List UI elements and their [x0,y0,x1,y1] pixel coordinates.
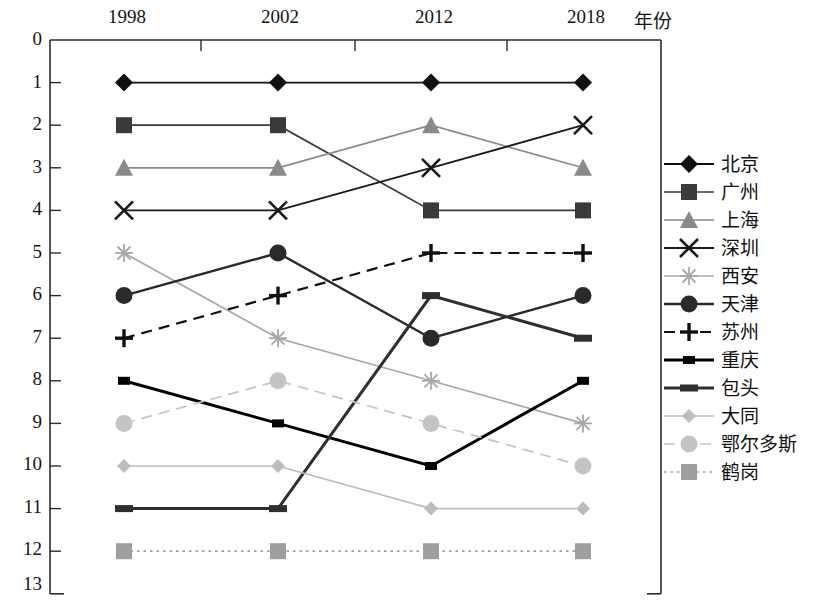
data-point-circle [681,296,698,313]
data-point-triangle [422,116,440,133]
legend-label: 鹤岗 [715,463,759,482]
series-10 [116,372,592,474]
data-point-circle-light [681,436,698,453]
series-5 [116,245,592,347]
chart-series-layer [115,74,592,560]
data-point-small-diamond [576,502,590,516]
data-point-circle [423,330,440,347]
data-point-bar [680,385,698,392]
legend-marker-cross-x-icon [663,236,715,260]
data-point-plus [269,287,287,305]
data-point-square-light [681,464,697,480]
data-point-diamond [680,155,698,173]
data-point-square-light [575,543,591,559]
data-point-square-light [116,543,132,559]
legend-marker-circle-light-icon [663,432,715,456]
legend-item-天津[interactable]: 天津 [663,290,823,318]
data-point-asterisk [269,329,287,347]
data-point-small-square [272,419,284,427]
data-point-small-diamond [682,409,696,423]
legend-marker-small-diamond-icon [663,404,715,428]
legend-item-鹤岗[interactable]: 鹤岗 [663,458,823,486]
data-point-small-diamond [117,459,131,473]
legend-marker-asterisk-icon [663,264,715,288]
data-point-square-light [270,543,286,559]
data-point-plus [680,323,698,341]
legend-item-深圳[interactable]: 深圳 [663,234,823,262]
chart-page: 1998 2002 2012 2018 年份 0 1 2 3 4 5 6 7 8… [0,0,824,602]
data-point-square-light [423,543,439,559]
legend-marker-square-light-icon [663,460,715,484]
data-point-bar [422,292,440,299]
legend-label: 包头 [715,379,759,398]
legend-label: 上海 [715,211,759,230]
legend-label: 深圳 [715,239,759,258]
data-point-asterisk [115,244,133,262]
chart-axes [50,40,661,594]
legend-item-广州[interactable]: 广州 [663,178,823,206]
legend-item-包头[interactable]: 包头 [663,374,823,402]
legend-label: 重庆 [715,351,759,370]
data-point-circle-light [270,372,287,389]
data-point-small-square [118,377,130,385]
data-point-small-diamond [424,502,438,516]
data-point-asterisk [422,372,440,390]
series-7 [118,377,589,470]
data-point-circle-light [575,458,592,475]
data-point-bar [574,335,592,342]
legend-marker-bar-icon [663,376,715,400]
legend-item-西安[interactable]: 西安 [663,262,823,290]
legend-item-北京[interactable]: 北京 [663,150,823,178]
legend-item-鄂尔多斯[interactable]: 鄂尔多斯 [663,430,823,458]
legend-marker-triangle-icon [663,208,715,232]
data-point-square [575,202,591,218]
data-point-circle-light [116,415,133,432]
legend-item-苏州[interactable]: 苏州 [663,318,823,346]
data-point-small-square [577,377,589,385]
data-point-bar [269,505,287,512]
legend-marker-diamond-icon [663,152,715,176]
data-point-plus [115,329,133,347]
data-point-diamond [574,74,592,92]
data-point-diamond [422,74,440,92]
chart-legend: 北京广州上海深圳西安天津苏州重庆包头大同鄂尔多斯鹤岗 [663,150,823,486]
legend-label: 大同 [715,407,759,426]
data-point-asterisk [574,414,592,432]
legend-item-上海[interactable]: 上海 [663,206,823,234]
legend-label: 广州 [715,183,759,202]
legend-label: 西安 [715,267,759,286]
legend-label: 苏州 [715,323,759,342]
data-point-plus [422,244,440,262]
legend-label: 北京 [715,155,759,174]
data-point-circle-light [423,415,440,432]
data-point-small-square [425,462,437,470]
data-point-circle [575,287,592,304]
data-point-cross-x [422,159,440,177]
data-point-bar [115,505,133,512]
data-point-square [270,117,286,133]
data-point-circle [116,287,133,304]
legend-label: 天津 [715,295,759,314]
data-point-diamond [269,74,287,92]
data-point-square [423,202,439,218]
legend-marker-circle-icon [663,292,715,316]
legend-marker-square-icon [663,180,715,204]
series-11 [116,543,591,559]
data-point-small-diamond [271,459,285,473]
data-point-cross-x [574,116,592,134]
legend-label: 鄂尔多斯 [715,435,797,454]
data-point-plus [574,244,592,262]
data-point-triangle [574,159,592,176]
legend-marker-plus-icon [663,320,715,344]
legend-item-大同[interactable]: 大同 [663,402,823,430]
data-point-circle [270,245,287,262]
legend-marker-small-square-icon [663,348,715,372]
data-point-small-square [683,356,695,364]
data-point-diamond [115,74,133,92]
data-point-square [116,117,132,133]
legend-item-重庆[interactable]: 重庆 [663,346,823,374]
series-0 [115,74,592,92]
data-point-asterisk [680,267,698,285]
data-point-square [681,184,697,200]
